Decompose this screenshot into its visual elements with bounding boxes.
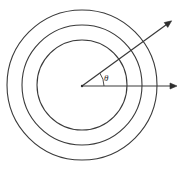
- polar-diagram: θ: [0, 0, 182, 172]
- theta-label: θ: [104, 73, 109, 83]
- diagonal-ray-arrowhead-icon: [164, 21, 171, 28]
- horizontal-ray-arrowhead-icon: [170, 83, 177, 89]
- center-vertex-dot: [81, 85, 83, 87]
- figure-canvas: θ: [0, 0, 182, 172]
- diagonal-ray: [82, 24, 168, 86]
